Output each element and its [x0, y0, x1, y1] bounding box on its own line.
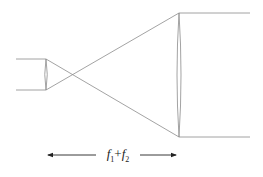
arrowhead-right-icon: [171, 153, 177, 157]
lens-f1: [45, 59, 48, 90]
arrowhead-left-icon: [47, 153, 53, 157]
lens-f2: [177, 13, 181, 137]
distance-label: f1+f2: [97, 146, 139, 168]
ray-top-to-bottom: [46, 59, 179, 137]
ray-bottom-to-top: [46, 13, 179, 90]
